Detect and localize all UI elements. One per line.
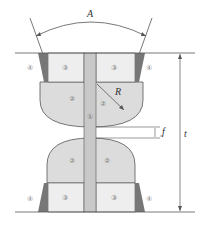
region-label-3: ③ bbox=[62, 194, 68, 202]
corner-region-bottom-left bbox=[38, 183, 48, 212]
arrowhead-icon bbox=[178, 54, 182, 59]
region-label-2: ② bbox=[104, 157, 110, 165]
corner-region-top-left bbox=[38, 53, 48, 82]
region-label-3: ③ bbox=[111, 194, 117, 202]
region-label-3: ③ bbox=[62, 64, 68, 72]
corner-region-bottom-right bbox=[135, 183, 145, 212]
thickness-label: t bbox=[184, 128, 187, 139]
region-label-4: ④ bbox=[27, 64, 33, 72]
center-strip bbox=[84, 53, 96, 212]
region-label-2: ② bbox=[69, 157, 75, 165]
angle-label: A bbox=[86, 8, 94, 19]
region-label-4: ④ bbox=[146, 64, 152, 72]
arrowhead-icon bbox=[178, 206, 182, 211]
arrowhead-icon bbox=[141, 32, 146, 36]
corner-region-top-right bbox=[135, 53, 145, 82]
angle-arc bbox=[36, 22, 146, 36]
region-label-1: ① bbox=[87, 113, 93, 121]
gap-label: f bbox=[162, 126, 166, 137]
weld-section-diagram: A R f t ④ ④ ③ ③ ② ② ① ② ② ③ ③ ④ ④ bbox=[0, 0, 205, 228]
region-label-3: ③ bbox=[111, 64, 117, 72]
region-label-2: ② bbox=[69, 95, 75, 103]
region-label-2: ② bbox=[100, 100, 106, 108]
region-label-4: ④ bbox=[27, 195, 33, 203]
radius-label: R bbox=[114, 86, 121, 97]
arrowhead-icon bbox=[36, 32, 41, 36]
region-label-4: ④ bbox=[146, 195, 152, 203]
